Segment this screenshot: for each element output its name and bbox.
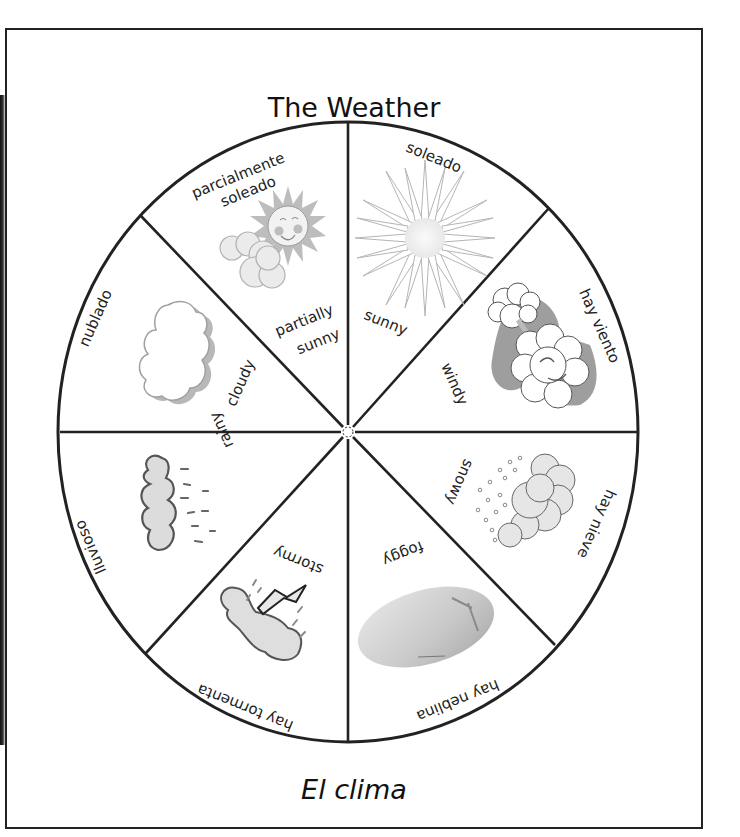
label-spanish-nublado: nublado [75, 287, 116, 350]
label-english-foggy: foggy [380, 537, 426, 570]
section-foggy: foggy hay neblina [349, 537, 504, 725]
label-english-sunny: sunny [362, 306, 411, 340]
snow-cloud-icon [476, 454, 575, 547]
fog-icon [349, 572, 504, 682]
weather-wheel: soleado sunny hay viento windy [0, 0, 740, 837]
label-english-windy: windy [437, 360, 472, 408]
label-english-stormy: stormy [270, 542, 325, 578]
section-snowy: hay nieve snowy [442, 454, 620, 561]
storm-cloud-icon [221, 580, 306, 660]
wheel-center-hub [343, 427, 353, 437]
label-english-snowy: snowy [442, 457, 478, 508]
label-english-cloudy: cloudy [222, 357, 259, 410]
section-sunny: soleado sunny [355, 138, 495, 339]
label-spanish-lluvioso: lluvioso [71, 517, 111, 576]
section-cloudy: nublado cloudy [75, 287, 259, 410]
label-english-rainy: rainy [206, 409, 238, 451]
cloud-icon [139, 301, 215, 404]
rain-cloud-icon [141, 456, 215, 550]
label-spanish-hay-nieve: hay nieve [573, 487, 619, 561]
section-rainy: rainy lluvioso [71, 409, 238, 577]
label-spanish-hay-tormenta: hay tormenta [195, 680, 296, 735]
